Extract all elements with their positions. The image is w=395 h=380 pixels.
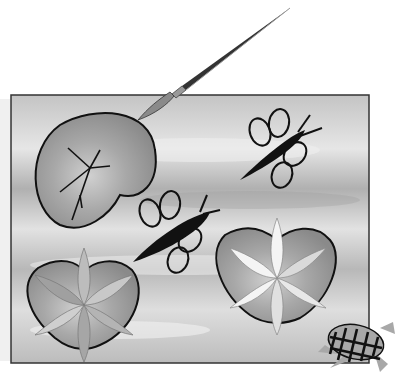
canvas-shadow [0, 99, 10, 361]
illustration [0, 0, 395, 380]
